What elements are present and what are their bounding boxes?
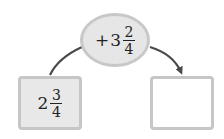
operation-denominator: 4 <box>125 42 134 56</box>
start-numerator: 3 <box>52 88 61 102</box>
operation-fraction: 2 4 <box>123 25 135 56</box>
right-arrow <box>150 47 181 72</box>
left-connector-line <box>50 47 82 75</box>
plus-sign: + <box>95 32 109 49</box>
result-answer-box[interactable] <box>150 76 214 130</box>
operation-mixed-number: + 3 2 4 <box>95 25 135 56</box>
start-denominator: 4 <box>52 105 61 119</box>
operation-whole: 3 <box>110 32 121 49</box>
start-whole: 2 <box>38 95 49 112</box>
mixed-number-addition-diagram: + 3 2 4 2 3 4 <box>0 0 224 139</box>
start-mixed-number: 2 3 4 <box>38 88 63 119</box>
operation-oval: + 3 2 4 <box>80 13 150 67</box>
start-fraction: 3 4 <box>50 88 62 119</box>
operation-numerator: 2 <box>125 25 134 39</box>
start-value-box: 2 3 4 <box>18 76 82 130</box>
